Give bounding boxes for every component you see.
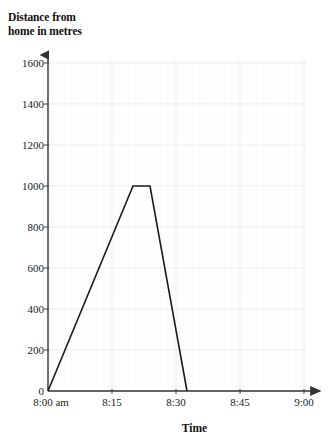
y-tick-0: 0 <box>0 386 44 397</box>
y-tick-label: 1200 <box>2 140 44 151</box>
distance-time-chart: Distance from home in metres <box>0 0 333 445</box>
y-tick-label: 200 <box>2 345 44 356</box>
y-tick-label: 1000 <box>2 181 44 192</box>
y-tick-label: 1400 <box>2 99 44 110</box>
y-tick-200: 200 <box>0 345 44 356</box>
y-tick-label: 1600 <box>2 58 44 69</box>
y-tick-label: 800 <box>2 222 44 233</box>
y-tick-label: 0 <box>2 386 44 397</box>
y-tick-1000: 1000 <box>0 181 44 192</box>
y-tick-label: 400 <box>2 304 44 315</box>
y-tick-600: 600 <box>0 263 44 274</box>
y-tick-label: 600 <box>2 263 44 274</box>
y-tick-1200: 1200 <box>0 140 44 151</box>
y-tick-800: 800 <box>0 222 44 233</box>
y-tick-1400: 1400 <box>0 99 44 110</box>
minor-gridlines <box>48 60 306 391</box>
y-tick-1600: 1600 <box>0 58 44 69</box>
x-tick-900: 9:00 <box>294 396 314 408</box>
x-axis-title-container: Time <box>0 422 333 434</box>
x-tick-815: 8:15 <box>102 396 122 408</box>
x-axis-title: Time <box>182 422 207 434</box>
x-tick-845: 8:45 <box>230 396 250 408</box>
x-tick-800am: 8:00 am <box>33 396 69 408</box>
x-tick-830: 8:30 <box>166 396 186 408</box>
y-tick-400: 400 <box>0 304 44 315</box>
plot-area <box>0 0 333 445</box>
